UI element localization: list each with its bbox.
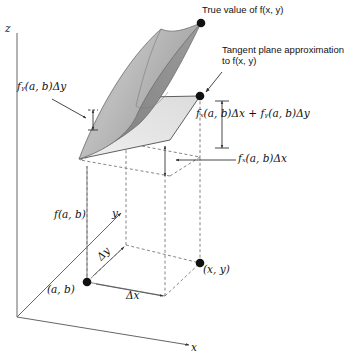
label-fy-delta-y: fᵧ(a, b)Δy — [17, 80, 66, 92]
label-tangent-plane-line1: Tangent plane approximation — [222, 44, 344, 55]
label-true-value: True value of f(x, y) — [202, 4, 283, 15]
dot-tangent-approx — [196, 92, 205, 101]
label-increment-sum: fₓ(a, b)Δx + fᵧ(a, b)Δy — [196, 107, 310, 119]
label-delta-x: Δx — [126, 289, 140, 301]
label-point-ab: (a, b) — [47, 283, 75, 295]
tangent-callout-arrow — [206, 72, 222, 92]
label-fx-delta-x: fₓ(a, b)Δx — [238, 152, 287, 164]
label-f-at-ab: f(a, b) — [54, 208, 86, 220]
dot-point-ab — [83, 278, 92, 287]
dot-true-value — [197, 19, 206, 28]
label-axis-z: z — [5, 22, 11, 34]
label-axis-x: x — [191, 341, 197, 353]
measure-fx-arrow — [165, 146, 236, 176]
axis-x — [17, 317, 189, 345]
label-axis-y: y — [112, 207, 118, 219]
label-tangent-plane-line2: to f(x, y) — [222, 55, 256, 66]
fy-label-leader — [52, 99, 86, 118]
label-tangent-plane: Tangent plane approximation to f(x, y) — [222, 44, 344, 66]
projection-box — [80, 143, 200, 296]
label-point-xy: (x, y) — [203, 263, 230, 275]
